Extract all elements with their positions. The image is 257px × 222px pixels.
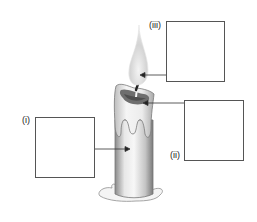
pointer-iii [140, 73, 166, 78]
label-iii: (iii) [149, 20, 161, 30]
label-ii: (ii) [170, 150, 180, 160]
answer-box-i[interactable] [35, 117, 95, 178]
candle-diagram: (iii) (ii) (i) [0, 0, 257, 222]
answer-box-iii[interactable] [166, 21, 225, 82]
label-i: (i) [22, 115, 30, 125]
answer-box-ii[interactable] [184, 100, 244, 161]
pointer-i [94, 147, 130, 152]
